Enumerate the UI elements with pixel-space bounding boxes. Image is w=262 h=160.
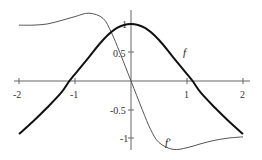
x-tick-label: -1 bbox=[70, 89, 78, 100]
y-tick-label: -1 bbox=[120, 133, 128, 144]
y-tick-label: 0.5 bbox=[113, 48, 126, 59]
f-label: f bbox=[183, 46, 188, 58]
f-prime-label: f' bbox=[165, 136, 171, 148]
y-tick-label: -0.5 bbox=[110, 105, 126, 116]
x-tick-label: 2 bbox=[240, 89, 245, 100]
x-tick-label: 1 bbox=[184, 89, 189, 100]
x-tick-label: -2 bbox=[13, 89, 21, 100]
function-plot: -2 -1 1 2 1 0.5 -0.5 -1 f f' bbox=[0, 0, 262, 160]
